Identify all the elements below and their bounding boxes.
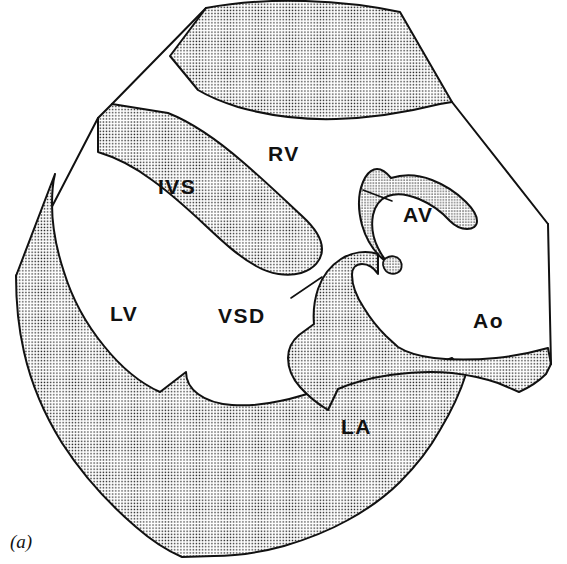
label-ao: Ao bbox=[473, 310, 504, 331]
label-ivs: IVS bbox=[158, 176, 196, 197]
sector-outline-group bbox=[16, 1, 551, 557]
label-rv: RV bbox=[268, 143, 300, 164]
region-rv-anterior-wall bbox=[170, 1, 452, 119]
heart-cross-section-diagram bbox=[0, 0, 567, 564]
figure-panel: RV IVS AV LV VSD Ao LA (a) bbox=[0, 0, 567, 564]
label-la: LA bbox=[341, 416, 372, 437]
region-valve-coaptation-nodule bbox=[383, 256, 402, 274]
figure-caption: (a) bbox=[10, 532, 32, 551]
region-interventricular-septum bbox=[98, 104, 322, 275]
label-av: AV bbox=[403, 204, 434, 225]
sector-edge-right-vertical bbox=[548, 224, 551, 364]
label-vsd: VSD bbox=[218, 305, 266, 326]
label-lv: LV bbox=[110, 303, 138, 324]
